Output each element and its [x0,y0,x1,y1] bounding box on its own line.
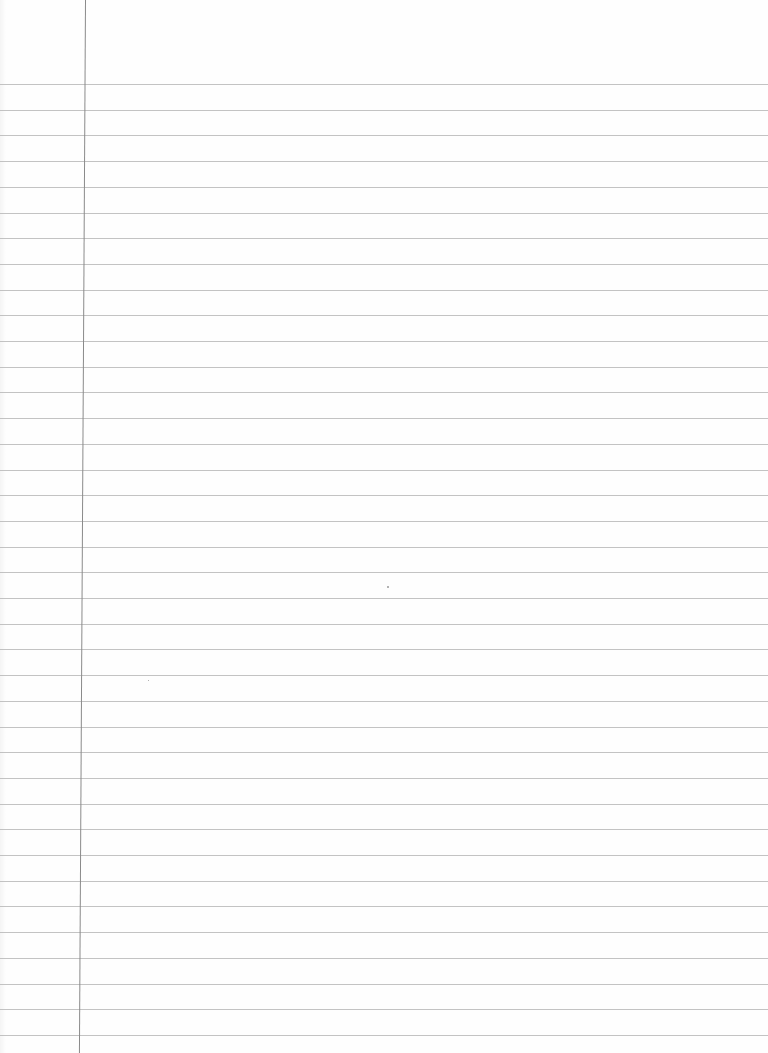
ruled-line [0,984,768,985]
ruled-line [0,521,768,522]
ruled-line [0,290,768,291]
ruled-line [0,392,768,393]
ruled-line [0,1009,768,1010]
ruled-line [0,418,768,419]
ruled-line [0,547,768,548]
ruled-line [0,829,768,830]
ruled-line [0,264,768,265]
ruled-line [0,315,768,316]
ruled-line [0,161,768,162]
ruled-line [0,906,768,907]
ruled-line [0,213,768,214]
ruled-line [0,804,768,805]
ruled-line [0,84,768,85]
paper-speck [387,586,389,588]
ruled-line [0,624,768,625]
ruled-line [0,495,768,496]
ruled-line [0,958,768,959]
ruled-line [0,727,768,728]
ruled-line [0,752,768,753]
ruled-line [0,470,768,471]
ruled-line [0,572,768,573]
ruled-line [0,778,768,779]
ruled-line [0,238,768,239]
ruled-line [0,110,768,111]
ruled-line [0,932,768,933]
ruled-line [0,598,768,599]
ruled-line [0,367,768,368]
ruled-line [0,444,768,445]
paper-speck [148,680,149,681]
lined-paper-page [0,0,768,1053]
ruled-line [0,341,768,342]
ruled-line [0,135,768,136]
page-edge-shadow [0,0,6,1053]
ruled-line [0,1035,768,1036]
ruled-line [0,855,768,856]
ruled-line [0,187,768,188]
ruled-line [0,649,768,650]
ruled-line [0,675,768,676]
margin-line [79,0,86,1053]
ruled-line [0,701,768,702]
ruled-line [0,881,768,882]
